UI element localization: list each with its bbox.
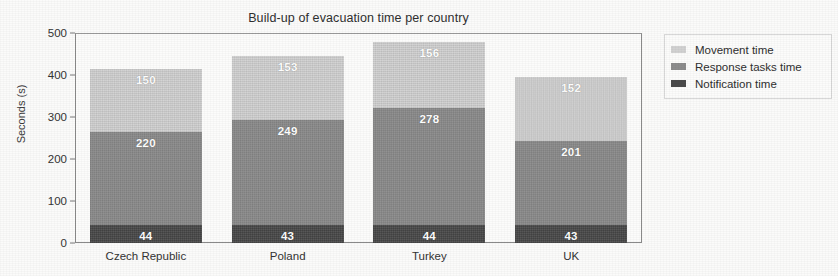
x-tick-label: Czech Republic xyxy=(106,250,187,262)
bar-segment[interactable]: 249 xyxy=(232,120,344,225)
legend-swatch xyxy=(671,63,686,70)
bar-group[interactable]: 43249153 xyxy=(232,56,344,243)
bar-segment-value-label: 201 xyxy=(561,146,581,158)
chart-page: Build-up of evacuation time per country … xyxy=(0,0,838,276)
bar-segment-value-label: 220 xyxy=(136,137,156,149)
bar-segment-value-label: 43 xyxy=(565,230,578,242)
bar-group[interactable]: 44278156 xyxy=(373,42,485,243)
legend-item[interactable]: Response tasks time xyxy=(671,58,827,75)
bar-segment[interactable]: 44 xyxy=(373,225,485,243)
legend-item[interactable]: Movement time xyxy=(671,41,827,58)
bar-segment[interactable]: 152 xyxy=(515,77,627,141)
bar-segment-value-label: 152 xyxy=(561,82,581,94)
bar-group[interactable]: 44220150 xyxy=(90,69,202,243)
y-axis-title: Seconds (s) xyxy=(15,85,27,144)
y-tick-label: 100 xyxy=(33,195,67,207)
bar-segment-value-label: 156 xyxy=(419,47,439,59)
bar-segment[interactable]: 44 xyxy=(90,225,202,243)
legend-label: Notification time xyxy=(695,78,777,90)
x-tick-label: UK xyxy=(563,250,579,262)
x-tick-label: Turkey xyxy=(412,250,447,262)
legend-label: Response tasks time xyxy=(695,61,802,73)
bar-segment-value-label: 44 xyxy=(423,230,436,242)
chart-title: Build-up of evacuation time per country xyxy=(75,11,642,25)
bar-segment[interactable]: 201 xyxy=(515,141,627,225)
bar-segment-value-label: 249 xyxy=(278,125,298,137)
bar-segment-value-label: 44 xyxy=(139,230,152,242)
bar-segment[interactable]: 220 xyxy=(90,132,202,224)
bar-segment-value-label: 150 xyxy=(136,74,156,86)
bar-segment[interactable]: 153 xyxy=(232,56,344,120)
legend-item[interactable]: Notification time xyxy=(671,75,827,92)
bar-segment[interactable]: 150 xyxy=(90,69,202,132)
y-tick-label: 0 xyxy=(33,237,67,249)
bar-segment-value-label: 278 xyxy=(419,113,439,125)
y-tick-label: 500 xyxy=(33,27,67,39)
legend-label: Movement time xyxy=(695,44,774,56)
legend-rows: Movement timeResponse tasks timeNotifica… xyxy=(671,41,827,92)
chart-legend: Movement timeResponse tasks timeNotifica… xyxy=(664,34,832,99)
bar-group[interactable]: 43201152 xyxy=(515,77,627,243)
bar-segment-value-label: 153 xyxy=(278,61,298,73)
bar-segment[interactable]: 278 xyxy=(373,108,485,225)
bar-segment[interactable]: 156 xyxy=(373,42,485,108)
y-tick-label: 200 xyxy=(33,153,67,165)
x-tick-label: Poland xyxy=(270,250,306,262)
y-tick-label: 300 xyxy=(33,111,67,123)
y-tick-label: 400 xyxy=(33,69,67,81)
legend-swatch xyxy=(671,80,686,87)
bar-segment-value-label: 43 xyxy=(281,230,294,242)
bars-layer: 44220150432491534427815643201152 xyxy=(75,33,642,243)
legend-swatch xyxy=(671,46,686,53)
bar-segment[interactable]: 43 xyxy=(232,225,344,243)
bar-segment[interactable]: 43 xyxy=(515,225,627,243)
